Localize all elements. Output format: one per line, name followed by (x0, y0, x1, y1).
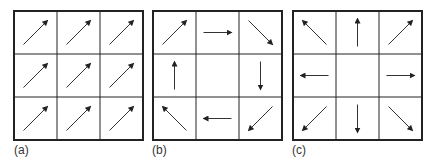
arrow-up-right-icon (67, 21, 91, 45)
arrow-up-right-icon (24, 64, 48, 88)
arrow-up-right-icon (110, 107, 134, 131)
arrow-up-left-icon (303, 21, 327, 45)
panel-b-label: (b) (152, 143, 167, 157)
arrow-down-right-icon (249, 21, 273, 45)
panel-a-grid (14, 11, 143, 140)
arrow-down-left-icon (249, 107, 273, 131)
panel-b-grid (153, 11, 282, 140)
panel-c-grid (293, 11, 422, 140)
arrow-down-left-icon (303, 107, 327, 131)
arrow-up-right-icon (24, 107, 48, 131)
arrow-up-right-icon (67, 107, 91, 131)
arrow-up-right-icon (110, 64, 134, 88)
panel-a-label: (a) (14, 143, 29, 157)
arrow-up-right-icon (110, 21, 134, 45)
arrow-down-right-icon (389, 107, 413, 131)
arrow-up-right-icon (389, 21, 413, 45)
arrow-up-right-icon (163, 21, 187, 45)
vector-field-diagram (0, 0, 435, 163)
arrow-up-right-icon (24, 21, 48, 45)
arrow-up-right-icon (67, 64, 91, 88)
arrow-up-left-icon (163, 107, 187, 131)
grid-border (153, 11, 282, 140)
panel-c-label: (c) (292, 143, 306, 157)
